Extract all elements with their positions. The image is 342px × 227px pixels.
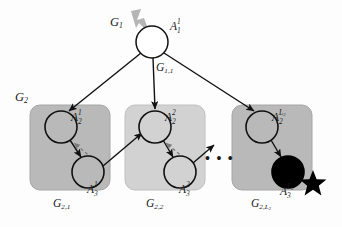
edge-root-to-a21 bbox=[69, 53, 141, 111]
label-a3l2: AL23 bbox=[280, 186, 287, 198]
edge-root-to-a2l2 bbox=[164, 53, 254, 111]
figure-canvas: G1 A11 G1,1 G2 A12 A13 G2,1 A22 A23 G2,2… bbox=[0, 0, 342, 227]
label-a31: A13 bbox=[87, 184, 94, 196]
label-a11-root: A11 bbox=[170, 21, 177, 33]
label-g1: G1 bbox=[110, 16, 123, 29]
label-g11-subgroup: G1,1 bbox=[156, 62, 173, 74]
label-a22: A22 bbox=[165, 112, 172, 124]
caption-g22: G2,2 bbox=[146, 198, 163, 210]
caption-g2l2: G2,L2 bbox=[251, 198, 271, 210]
label-g2: G2 bbox=[15, 91, 28, 104]
caption-g21: G2,1 bbox=[53, 198, 70, 210]
node-a11-root bbox=[136, 26, 168, 58]
edge-root-to-a22 bbox=[153, 58, 155, 109]
label-a21: A12 bbox=[71, 112, 78, 124]
label-a32: A23 bbox=[179, 184, 186, 196]
label-a2l2: AL22 bbox=[272, 112, 279, 124]
ellipsis-between-groups: • • • bbox=[205, 152, 234, 166]
